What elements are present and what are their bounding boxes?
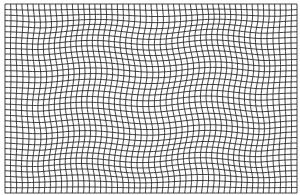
vertical-grid-line [267, 4, 270, 193]
horizontal-grid-line [5, 19, 297, 22]
vertical-grid-line [32, 4, 35, 193]
vertical-grid-line [255, 4, 259, 193]
vertical-grid-line [65, 4, 68, 193]
vertical-grid-line [143, 4, 147, 193]
vertical-grid-line [200, 4, 204, 193]
vertical-grid-line [183, 4, 187, 193]
vertical-grid-line [137, 4, 141, 193]
vertical-grid-line [43, 4, 46, 193]
vertical-grid-line [206, 4, 210, 193]
vertical-grid-line [87, 4, 91, 193]
vertical-grid-line [273, 4, 275, 193]
vertical-grid-line [189, 4, 193, 193]
horizontal-grid-line [5, 35, 297, 40]
vertical-grid-line [76, 4, 79, 193]
horizontal-grid-line [5, 90, 297, 95]
deformed-grid [0, 0, 300, 195]
horizontal-grid-line [5, 14, 297, 16]
vertical-grid-line [149, 4, 153, 193]
vertical-grid-line [154, 4, 158, 193]
horizontal-grid-line [5, 187, 297, 188]
vertical-grid-line [217, 4, 221, 193]
vertical-grid-line [81, 4, 85, 193]
vertical-grid-line [160, 4, 164, 193]
vertical-grid-line [71, 4, 74, 193]
vertical-grid-line [195, 4, 199, 193]
vertical-grid-line [261, 4, 264, 193]
vertical-grid-line [92, 4, 96, 193]
deformed-grid-figure [0, 0, 300, 195]
horizontal-grid-line [5, 141, 297, 146]
vertical-grid-line [212, 4, 216, 193]
horizontal-grid-line [5, 113, 297, 118]
vertical-grid-line [38, 4, 41, 193]
vertical-grid-line [120, 4, 124, 193]
horizontal-grid-line [5, 152, 297, 157]
horizontal-grid-line [5, 79, 297, 84]
vertical-grid-line [166, 4, 170, 193]
